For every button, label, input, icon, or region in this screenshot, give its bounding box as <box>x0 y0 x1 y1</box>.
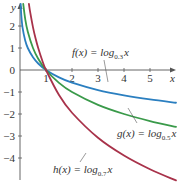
f-leader-line <box>104 60 108 82</box>
x-tick-label: 4 <box>121 72 127 84</box>
g-label: g(x) = log0.5x <box>117 127 176 142</box>
curves <box>21 4 176 180</box>
y-tick-label: −1 <box>3 86 15 98</box>
h-leader-line <box>80 153 86 162</box>
y-tick-label: −2 <box>3 108 15 120</box>
y-tick-label: 1 <box>10 42 16 54</box>
axes <box>18 3 177 180</box>
h-curve <box>29 4 176 180</box>
x-axis-label: x <box>169 72 175 84</box>
y-tick-label: 2 <box>10 20 16 32</box>
h-label: h(x) = log0.7x <box>53 163 112 178</box>
log-functions-chart: 12345210−1−2−3−4 x y f(x) = log0.3x g(x)… <box>0 0 179 190</box>
x-tick-label: 3 <box>95 72 101 84</box>
y-axis-label: y <box>10 1 16 13</box>
f-label: f(x) = log0.3x <box>72 46 129 61</box>
y-tick-label: −3 <box>3 130 15 142</box>
x-tick-label: 5 <box>147 72 153 84</box>
y-tick-label: −4 <box>3 152 15 164</box>
g-curve <box>23 4 176 127</box>
y-tick-label: 0 <box>10 64 16 76</box>
